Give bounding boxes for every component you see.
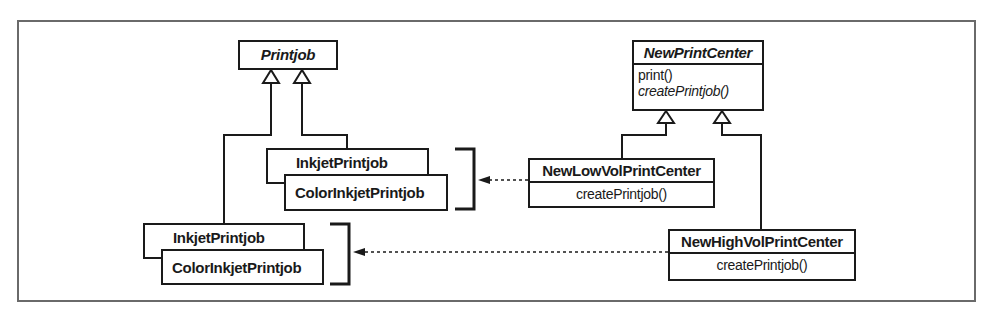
- upper-group-bracket: [455, 149, 474, 209]
- class-new-low-vol-print-center: NewLowVolPrintCenter createPrintjob(): [528, 158, 715, 208]
- class-new-high-vol-print-center: NewHighVolPrintCenter createPrintjob(): [668, 229, 856, 281]
- arrowhead-icon: [478, 176, 490, 184]
- generalization-line-lower-group: [224, 83, 271, 223]
- class-new-print-center: NewPrintCenter print() createPrintjob(): [632, 40, 764, 111]
- class-name: ColorInkjetPrintjob: [295, 184, 424, 201]
- generalization-line-high-vol: [722, 123, 761, 229]
- inheritance-triangle-icon: [658, 111, 674, 123]
- class-printjob: Printjob: [238, 40, 338, 70]
- inheritance-triangle-icon: [263, 70, 279, 83]
- class-color-inkjet-printjob-lower: ColorInkjetPrintjob: [161, 249, 324, 285]
- class-name: NewPrintCenter: [634, 42, 762, 63]
- operation-create-printjob: createPrintjob(): [530, 181, 713, 206]
- class-name: ColorInkjetPrintjob: [172, 259, 301, 276]
- class-name: NewHighVolPrintCenter: [670, 231, 854, 252]
- lower-group-bracket: [330, 224, 349, 284]
- operation-create-printjob: createPrintjob(): [638, 83, 758, 99]
- class-color-inkjet-printjob-upper: ColorInkjetPrintjob: [284, 174, 448, 211]
- inheritance-triangle-icon: [294, 70, 310, 83]
- class-name: NewLowVolPrintCenter: [530, 160, 713, 181]
- inheritance-triangle-icon: [714, 111, 730, 123]
- class-name: InkjetPrintjob: [296, 154, 388, 171]
- arrowhead-icon: [353, 248, 365, 256]
- class-operations: print() createPrintjob(): [634, 63, 762, 101]
- generalization-line-low-vol: [622, 123, 666, 158]
- operation-print: print(): [638, 67, 758, 83]
- operation-create-printjob: createPrintjob(): [670, 252, 854, 277]
- class-name: InkjetPrintjob: [173, 229, 265, 246]
- class-name: Printjob: [240, 42, 336, 68]
- generalization-line-upper-group: [302, 83, 347, 148]
